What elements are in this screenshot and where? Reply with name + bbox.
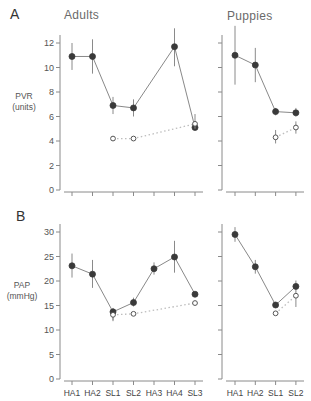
data-point-filled (110, 102, 116, 108)
data-point-filled (232, 231, 238, 237)
ylabel-pap-line2: (mmHg) (7, 291, 38, 301)
data-point-filled (151, 266, 157, 272)
subplot-a-adults: 024681012 (44, 28, 203, 196)
data-point-filled (172, 44, 178, 50)
ylabel-pvr-line1: PVR (15, 91, 32, 101)
data-point-filled (273, 109, 279, 115)
x-tick-label: HA1 (64, 388, 81, 398)
series-line-open (276, 128, 296, 138)
y-tick-label: 4 (49, 136, 54, 146)
y-tick-label: 20 (44, 276, 54, 286)
data-point-filled (252, 264, 258, 270)
subplot-b-puppies: HA1HA2SL1SL2 (218, 224, 304, 398)
data-point-filled (90, 53, 96, 59)
x-tick-label: HA3 (146, 388, 163, 398)
y-tick-label: 10 (44, 325, 54, 335)
x-tick-label: SL2 (126, 388, 141, 398)
data-point-filled (232, 52, 238, 58)
data-point-filled (252, 62, 258, 68)
subplot-a-puppies (218, 26, 304, 196)
series-line-open (113, 124, 195, 139)
ylabel-pvr-line2: (units) (12, 102, 36, 112)
data-point-filled (172, 254, 178, 260)
data-point-open (193, 121, 198, 126)
x-tick-label: HA2 (247, 388, 264, 398)
y-tick-label: 15 (44, 301, 54, 311)
y-tick-label: 25 (44, 252, 54, 262)
x-tick-label: SL1 (268, 388, 283, 398)
panel-letter-b: B (16, 208, 25, 224)
data-point-filled (293, 283, 299, 289)
data-point-filled (69, 53, 75, 59)
data-point-filled (131, 300, 137, 306)
series-line-filled (235, 234, 296, 305)
y-tick-label: 10 (44, 63, 54, 73)
y-tick-label: 12 (44, 38, 54, 48)
series-line-filled (235, 55, 296, 113)
y-tick-label: 30 (44, 227, 54, 237)
figure: A Adults Puppies B PVR (units) PAP (mmHg… (0, 0, 311, 401)
data-point-open (294, 293, 299, 298)
x-tick-label: SL3 (187, 388, 202, 398)
panel-letter-a: A (10, 6, 20, 22)
y-tick-label: 0 (49, 185, 54, 195)
y-tick-label: 5 (49, 350, 54, 360)
data-point-open (273, 311, 278, 316)
y-tick-label: 8 (49, 87, 54, 97)
x-tick-label: SL2 (288, 388, 303, 398)
y-tick-label: 2 (49, 161, 54, 171)
data-point-filled (69, 263, 75, 269)
data-point-open (111, 136, 116, 141)
data-point-open (294, 125, 299, 130)
group-title-adults: Adults (64, 8, 99, 22)
series-line-open (113, 303, 195, 315)
x-tick-label: SL1 (105, 388, 120, 398)
group-title-puppies: Puppies (227, 9, 272, 23)
y-tick-label: 0 (49, 374, 54, 384)
data-point-open (111, 312, 116, 317)
data-point-filled (273, 302, 279, 308)
subplot-b-adults: 051015202530HA1HA2SL1SL2HA3HA4SL3 (44, 224, 203, 398)
data-point-open (193, 301, 198, 306)
data-point-open (131, 136, 136, 141)
data-point-open (273, 135, 278, 140)
data-point-filled (90, 271, 96, 277)
data-point-filled (131, 105, 137, 111)
ylabel-pap-line1: PAP (14, 280, 31, 290)
x-tick-label: HA4 (166, 388, 183, 398)
x-tick-label: HA1 (227, 388, 244, 398)
data-point-filled (192, 291, 198, 297)
x-tick-label: HA2 (84, 388, 101, 398)
plot-area: 024681012051015202530HA1HA2SL1SL2HA3HA4S… (44, 26, 304, 398)
data-point-filled (293, 110, 299, 116)
data-point-open (131, 311, 136, 316)
y-tick-label: 6 (49, 112, 54, 122)
